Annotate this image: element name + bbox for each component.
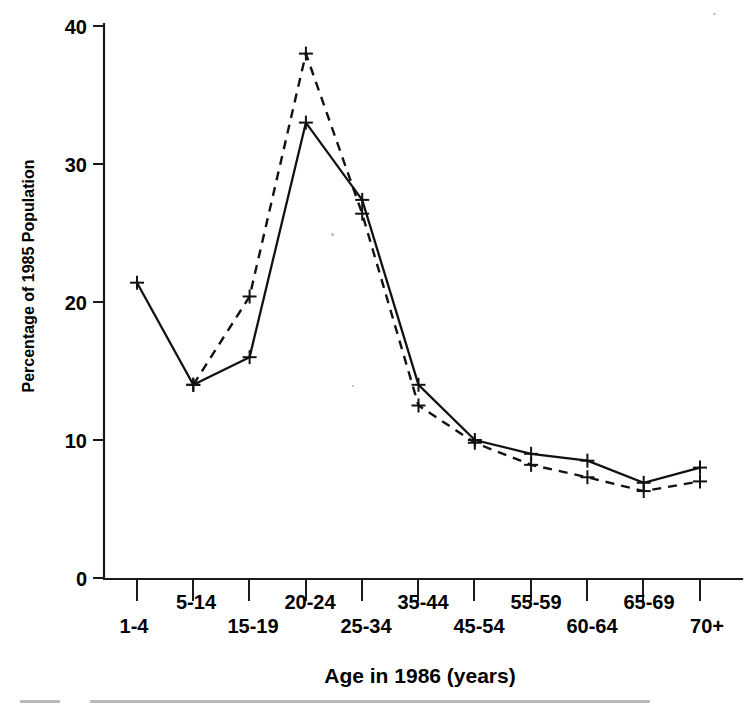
- chart-figure: 40 30 20 10 0 1-4 5-14 15-19 20-24 25-34…: [0, 0, 751, 708]
- x-tick-label-70plus: 70+: [690, 615, 724, 637]
- x-tick-label-55-59: 55-59: [510, 591, 561, 613]
- series-markers-solid-line: [130, 116, 707, 490]
- y-tick-label-30: 30: [65, 154, 87, 176]
- x-tick-label-1-4: 1-4: [120, 615, 150, 637]
- y-axis-title: Percentage of 1985 Population: [20, 160, 37, 393]
- x-tick-label-25-34: 25-34: [340, 615, 392, 637]
- y-tick-label-40: 40: [65, 16, 87, 38]
- x-tick-label-35-44: 35-44: [397, 591, 449, 613]
- y-axis-ticks: [93, 26, 104, 578]
- y-tick-label-20: 20: [65, 292, 87, 314]
- x-tick-label-5-14: 5-14: [176, 591, 217, 613]
- scan-speck: [713, 13, 716, 15]
- x-tick-label-20-24: 20-24: [284, 591, 336, 613]
- y-tick-label-10: 10: [65, 430, 87, 452]
- scan-speck: [331, 233, 334, 236]
- page-edge-artifact: [20, 700, 60, 703]
- line-chart-plot: 40 30 20 10 0 1-4 5-14 15-19 20-24 25-34…: [0, 0, 751, 708]
- x-axis-title: Age in 1986 (years): [324, 664, 515, 687]
- x-tick-label-45-54: 45-54: [453, 615, 505, 637]
- x-tick-label-65-69: 65-69: [623, 591, 674, 613]
- scan-speck: [352, 385, 354, 387]
- series-line-solid-line: [137, 123, 700, 483]
- x-tick-label-60-64: 60-64: [566, 615, 618, 637]
- series-markers-dashed-line: [186, 47, 707, 498]
- x-tick-label-15-19: 15-19: [227, 615, 278, 637]
- y-tick-label-0: 0: [76, 568, 87, 590]
- series-layer: [130, 47, 707, 498]
- page-edge-artifact: [90, 700, 650, 703]
